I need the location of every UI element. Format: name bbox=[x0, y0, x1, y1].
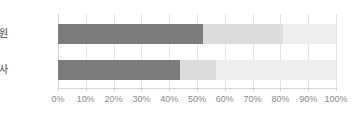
x-tick-mark-80 bbox=[280, 88, 281, 91]
bar-segment-0-2 bbox=[283, 24, 336, 44]
bar-segment-1-2 bbox=[216, 60, 336, 80]
x-tick-mark-50 bbox=[197, 88, 198, 91]
bar-row-0 bbox=[58, 24, 336, 44]
x-tick-mark-20 bbox=[114, 88, 115, 91]
plot-area bbox=[58, 14, 336, 88]
x-tick-mark-100 bbox=[336, 88, 337, 91]
bar-segment-1-0 bbox=[58, 60, 180, 80]
x-tick-mark-30 bbox=[141, 88, 142, 91]
bar-segment-1-1 bbox=[180, 60, 216, 80]
bar-segment-0-0 bbox=[58, 24, 203, 44]
x-tick-mark-60 bbox=[225, 88, 226, 91]
x-tick-label-100: 100% bbox=[316, 94, 356, 104]
x-tick-mark-10 bbox=[86, 88, 87, 91]
x-tick-mark-70 bbox=[253, 88, 254, 91]
stacked-bar-chart: 조합원 일반교사 0%10%20%30%40%50%60%70%80%90%10… bbox=[0, 0, 357, 117]
bar-row-1 bbox=[58, 60, 336, 80]
bar-segment-0-1 bbox=[203, 24, 284, 44]
x-tick-mark-0 bbox=[58, 88, 59, 91]
category-label-0: 조합원 bbox=[0, 24, 8, 44]
x-tick-mark-90 bbox=[308, 88, 309, 91]
gridline-100 bbox=[336, 14, 337, 88]
x-tick-mark-40 bbox=[169, 88, 170, 91]
category-label-1: 일반교사 bbox=[0, 60, 8, 80]
